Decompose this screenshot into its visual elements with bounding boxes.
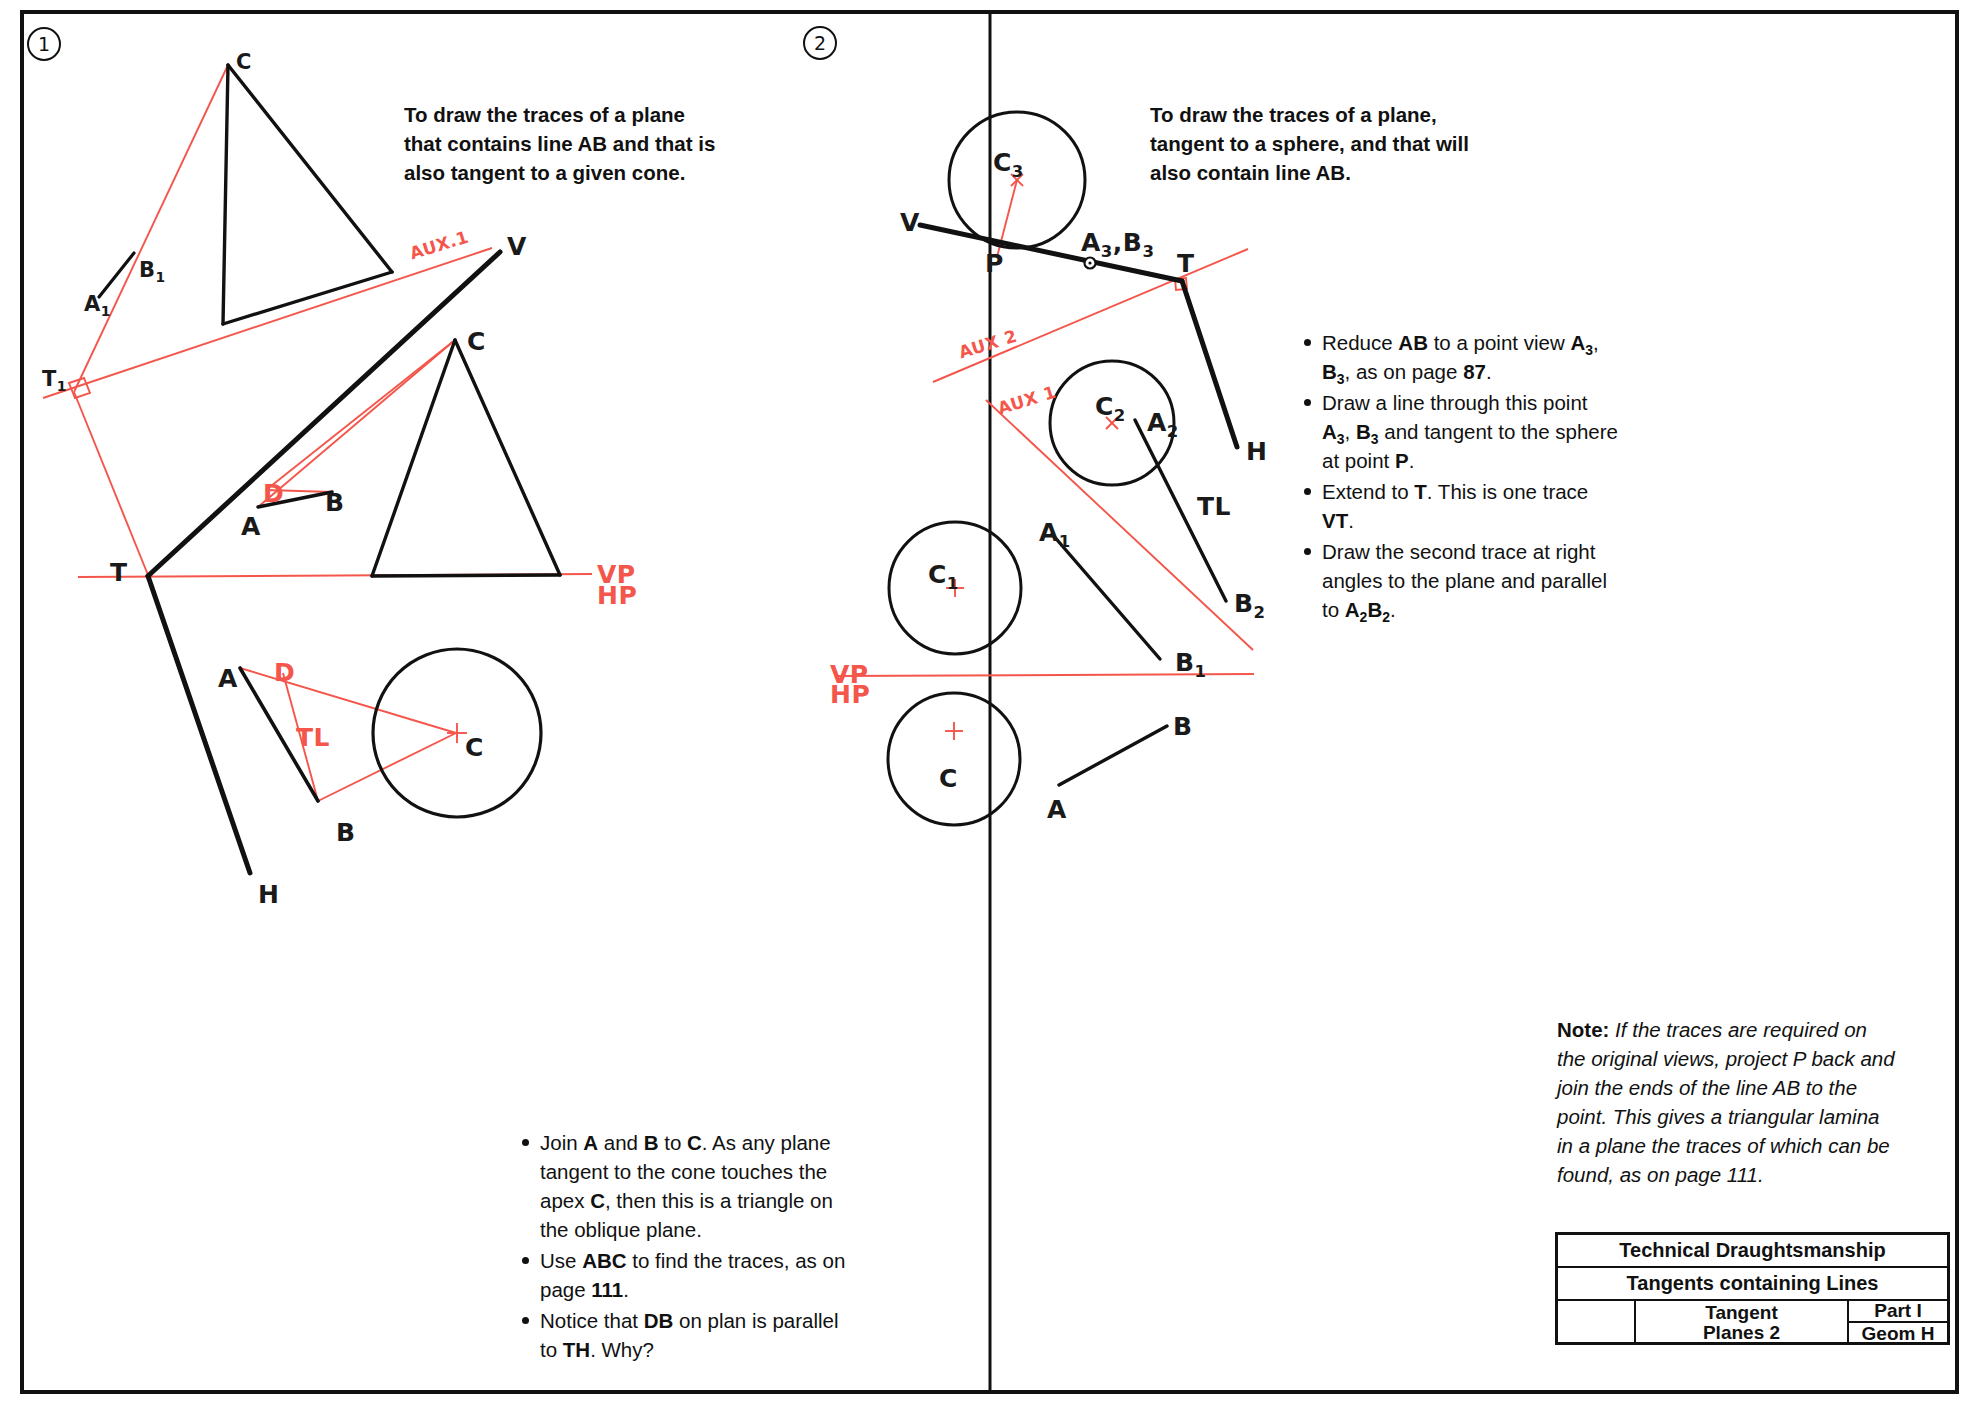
title-block-drawing-name: Tangent Planes 2 <box>1636 1301 1849 1345</box>
aux-cone-base <box>223 272 392 324</box>
bullet-item: Join A and B to C. As any plane tangent … <box>518 1128 858 1244</box>
tl-label-plan: TL <box>296 723 330 752</box>
sphere-centre-c2: C2 <box>1095 392 1126 421</box>
title-block-row-detail: Tangent Planes 2 Part I Geom H <box>1558 1301 1947 1345</box>
aux-cone-right-side <box>228 65 392 272</box>
point-a-plan-2: A <box>1047 795 1067 824</box>
point-a-elevation: A <box>241 512 261 541</box>
point-b1: B1 <box>139 258 166 282</box>
horizontal-trace-h: H <box>258 880 279 909</box>
panel-2-heading: To draw the traces of a plane, tangent t… <box>1150 100 1485 187</box>
title-block-symbols <box>1558 1301 1636 1345</box>
tangent-point-p: P <box>985 249 1004 278</box>
panel-1-number-text: 1 <box>38 33 50 55</box>
title-block-row-topic: Tangents containing Lines <box>1558 1268 1947 1301</box>
hp-label: HP <box>597 581 637 610</box>
panel-1-bullets: Join A and B to C. As any plane tangent … <box>518 1128 858 1366</box>
trace-t1-t <box>74 392 148 575</box>
bullet-item: Extend to T. This is one trace VT. <box>1300 477 1620 535</box>
vertical-trace-v2: V <box>900 208 920 237</box>
point-d-elevation: D <box>263 479 284 508</box>
point-b-plan-2: B <box>1173 712 1193 741</box>
title-block-topic: Tangents containing Lines <box>1558 1268 1947 1299</box>
hp-label-2: HP <box>830 680 870 709</box>
elev-c-to-d <box>266 340 455 490</box>
point-view-a3b3: A3,B3 <box>1081 228 1154 257</box>
panel-2-bullets: Reduce AB to a point view A3, B3, as on … <box>1300 328 1620 626</box>
panel-2-number-text: 2 <box>814 32 826 54</box>
point-b2: B2 <box>1234 589 1266 618</box>
aux-cone-axis <box>223 65 228 324</box>
linework-layer <box>0 0 1977 1421</box>
tl-label-2: TL <box>1197 492 1231 521</box>
panel-number-2: 2 <box>803 26 837 60</box>
point-d-plan: D <box>274 658 295 687</box>
point-a1: A1 <box>84 292 111 316</box>
trace-t-to-h <box>148 576 250 873</box>
line-a-b-plan <box>1059 726 1167 785</box>
panel-2-note: Note: If the traces are required on the … <box>1557 1015 1899 1189</box>
trace-t1: T1 <box>42 367 67 391</box>
aux-cone <box>223 65 392 324</box>
centre-c-plan: C <box>465 733 484 762</box>
elevation-cone <box>372 340 560 576</box>
title-block-part: Part I <box>1849 1301 1947 1323</box>
elev-cone-base <box>372 575 560 576</box>
vertical-trace-v: V <box>507 232 527 261</box>
title-block-code: Geom H <box>1849 1323 1947 1345</box>
drawing-name-line1: Tangent <box>1705 1303 1777 1323</box>
point-a-plan: A <box>218 664 238 693</box>
drawing-sheet: 1 2 To draw the traces of a plane that c… <box>0 0 1977 1421</box>
sphere-centre-c1: C1 <box>928 560 959 589</box>
bullet-item: Notice that DB on plan is parallel to TH… <box>518 1306 858 1364</box>
elev-cone-right-side <box>455 340 560 575</box>
point-a1-2: A1 <box>1039 518 1071 547</box>
point-a2: A2 <box>1147 408 1179 437</box>
note-lead: Note: <box>1557 1018 1609 1041</box>
trace-t-to-h2 <box>1182 281 1237 447</box>
line-a1-b1 <box>1052 534 1160 659</box>
trace-v-to-t <box>148 252 500 576</box>
point-b-plan: B <box>336 818 356 847</box>
trace-t2: T <box>1177 249 1195 278</box>
panel-number-1: 1 <box>27 27 61 61</box>
point-b1-2: B1 <box>1175 648 1207 677</box>
bullet-item: Draw a line through this point A3, B3 an… <box>1300 388 1620 475</box>
bullet-item: Draw the second trace at right angles to… <box>1300 537 1620 624</box>
apex-c-aux: C <box>236 50 252 74</box>
bullet-item: Reduce AB to a point view A3, B3, as on … <box>1300 328 1620 386</box>
title-block: Technical Draughtsmanship Tangents conta… <box>1555 1232 1950 1345</box>
title-block-part-code: Part I Geom H <box>1849 1301 1947 1345</box>
bullet-item: Use ABC to find the traces, as on page 1… <box>518 1246 858 1304</box>
point-b-elevation: B <box>325 488 345 517</box>
trace-t: T <box>110 558 128 587</box>
drawing-name-line2: Planes 2 <box>1703 1323 1780 1343</box>
title-block-row-subject: Technical Draughtsmanship <box>1558 1235 1947 1268</box>
title-block-subject: Technical Draughtsmanship <box>1558 1235 1947 1266</box>
plan-b-to-c <box>318 733 456 801</box>
sphere-centre-c3: C3 <box>993 148 1024 177</box>
panel-1-heading: To draw the traces of a plane that conta… <box>404 100 716 187</box>
sphere-centre-c-plan: C <box>939 764 958 793</box>
sphere-circle-plan <box>888 693 1020 825</box>
apex-c-elevation: C <box>467 327 486 356</box>
note-body: If the traces are required on the origin… <box>1557 1018 1895 1186</box>
point-view-marker-dot <box>1088 261 1091 264</box>
horizontal-trace-h2: H <box>1246 437 1267 466</box>
